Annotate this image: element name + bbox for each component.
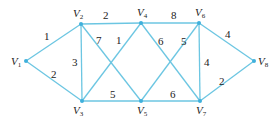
edge-weight-v1-v2: 1 <box>44 30 50 42</box>
node-v6 <box>197 21 201 25</box>
node-label-v8: V8 <box>258 55 269 69</box>
edge-weight-v2-v3: 3 <box>72 56 78 68</box>
edge-v2-v4 <box>81 23 141 24</box>
weighted-graph: 12237158656442 V1V2V3V4V5V6V7V8 <box>0 0 276 130</box>
node-label-v5: V5 <box>137 104 148 118</box>
node-v4 <box>139 21 143 25</box>
edge-weight-v3-v4: 1 <box>116 34 122 46</box>
edge-weight-v7-v8: 2 <box>219 75 225 87</box>
edge-weight-v2-v4: 2 <box>103 9 109 21</box>
node-label-v4: V4 <box>137 6 148 20</box>
node-v8 <box>252 59 256 63</box>
edge-weight-v5-v7: 6 <box>170 88 176 100</box>
edge-weight-v4-v6: 8 <box>171 9 177 21</box>
edge-weight-v3-v5: 5 <box>110 88 116 100</box>
node-v1 <box>24 59 28 63</box>
edge-weight-v4-v7: 6 <box>158 35 164 47</box>
node-label-v1: V1 <box>11 55 22 69</box>
nodes-layer <box>24 21 256 103</box>
node-label-v6: V6 <box>195 6 206 20</box>
edge-v6-v7 <box>199 23 200 101</box>
node-label-v2: V2 <box>73 7 84 21</box>
edge-weight-v2-v5: 7 <box>96 34 102 46</box>
edge-weight-v6-v8: 4 <box>225 28 231 40</box>
edges-layer <box>26 23 254 101</box>
node-v7 <box>198 99 202 103</box>
edge-weight-v5-v6: 5 <box>181 35 187 47</box>
node-v3 <box>80 99 84 103</box>
edge-weight-v6-v7: 4 <box>204 56 210 68</box>
edge-weight-v1-v3: 2 <box>51 68 57 80</box>
node-label-v3: V3 <box>73 104 84 118</box>
node-v5 <box>139 99 143 103</box>
edge-v2-v3 <box>81 24 82 101</box>
node-v2 <box>79 22 83 26</box>
node-label-v7: V7 <box>196 104 207 118</box>
